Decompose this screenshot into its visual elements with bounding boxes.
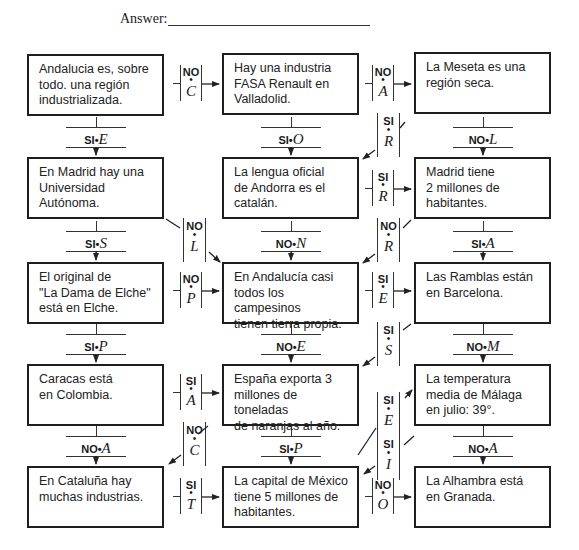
connector-2-to-5: SI•O bbox=[261, 117, 321, 157]
connector-14-to-15: NO• O bbox=[365, 476, 401, 516]
statement-box-11: España exporta 3 millones de toneladas d… bbox=[222, 364, 359, 426]
connector-7-to-8: NO• P bbox=[173, 270, 209, 310]
connector-5-to-8: NO•N bbox=[261, 221, 321, 261]
connector-4-to-7: SI•S bbox=[66, 221, 126, 261]
connector-7-to-10: SI•P bbox=[66, 324, 126, 364]
answer-blank-line[interactable] bbox=[168, 25, 370, 26]
connector-1-to-4: SI•E bbox=[66, 117, 126, 157]
connector-14-to-12: SI • E bbox=[377, 392, 401, 436]
connector-5-to-6: SI• R bbox=[365, 168, 401, 208]
connector-9-to-12: NO•M bbox=[453, 324, 513, 364]
statement-box-5: La lengua oficial de Andorra es el catal… bbox=[222, 157, 359, 219]
connector-11-to-13: NO • C bbox=[183, 422, 207, 466]
statement-box-1: Andalucia es, sobre todo. una región ind… bbox=[27, 54, 164, 116]
connector-2-to-3: NO• A bbox=[365, 63, 401, 103]
connector-8-to-9: SI• E bbox=[365, 270, 401, 310]
connector-10-to-13: NO•A bbox=[66, 426, 126, 466]
statement-box-14: La capital de México tiene 5 millones de… bbox=[222, 466, 359, 528]
connector-11-to-14: SI•P bbox=[261, 426, 321, 466]
statement-box-15: La Alhambra está en Granada. bbox=[414, 466, 551, 528]
statement-box-7: El original de "La Dama de Elche" está e… bbox=[27, 262, 164, 324]
connector-3-to-5: SI • R bbox=[377, 113, 401, 157]
statement-box-10: Caracas está en Colombia. bbox=[27, 364, 164, 426]
connector-1-to-2: NO• C bbox=[173, 63, 209, 103]
connector-3-to-6: NO•L bbox=[453, 117, 513, 157]
statement-box-9: Las Ramblas están en Barcelona. bbox=[414, 262, 551, 324]
connector-10-to-11: SI• A bbox=[173, 372, 209, 412]
connector-13-to-14: SI• T bbox=[173, 476, 209, 516]
connector-12-to-15: NO•A bbox=[453, 426, 513, 466]
statement-box-4: En Madrid hay una Universidad Autónoma. bbox=[27, 157, 164, 219]
connector-6-to-9: SI•A bbox=[453, 221, 513, 261]
statement-box-6: Madrid tiene 2 millones de habitantes. bbox=[414, 157, 551, 219]
answer-label: Answer: bbox=[120, 11, 167, 27]
statement-box-12: La temperatura media de Málaga en julio:… bbox=[414, 364, 551, 426]
connector-6-to-8: NO • R bbox=[377, 218, 401, 262]
connector-4-to-8: NO • L bbox=[183, 218, 207, 262]
connector-9-to-11: SI • S bbox=[377, 322, 401, 366]
statement-box-2: Hay una industria FASA Renault en Vallad… bbox=[222, 53, 359, 115]
connector-8-to-11: NO•E bbox=[261, 324, 321, 364]
statement-box-3: La Meseta es una región seca. bbox=[414, 52, 551, 114]
statement-box-8: En Andalucía casi todos los campesinos t… bbox=[222, 262, 359, 324]
connector-12-to-14: SI • I bbox=[377, 436, 401, 480]
statement-box-13: En Cataluña hay muchas industrias. bbox=[27, 466, 164, 528]
